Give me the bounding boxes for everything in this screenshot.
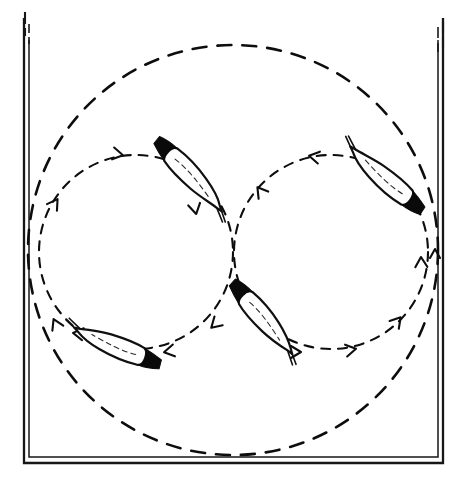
- figure-root: [0, 0, 467, 492]
- orbit-tracks: [28, 45, 438, 455]
- frame-outer-line: [24, 18, 443, 463]
- arrow-left-orbit-inner: [188, 203, 202, 215]
- arrow-left-orbit-bottom: [163, 345, 175, 359]
- figure-canvas: [0, 0, 467, 492]
- frame-top-left-fragments: [25, 12, 29, 44]
- organism-bottom-center: [224, 276, 309, 367]
- arrow-left-orbit-wsw: [48, 317, 63, 331]
- arrow-right-orbit-east: [415, 257, 427, 267]
- organism-bottom-left: [60, 317, 165, 374]
- arrow-left-orbit-top: [112, 148, 124, 162]
- arrow-left-orbit-south: [207, 316, 222, 332]
- frame-top-right-fragments: [438, 22, 443, 52]
- organism-top-right: [334, 135, 430, 219]
